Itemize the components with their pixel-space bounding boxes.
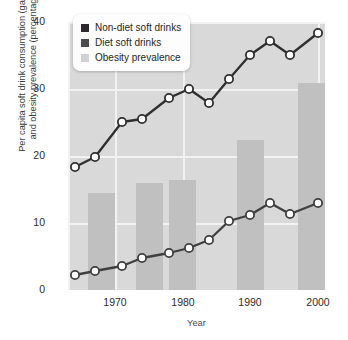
legend-item-diet-soft-drinks[interactable]: Diet soft drinks	[81, 35, 181, 50]
y-tick-label: 40	[21, 15, 45, 27]
x-tick-1980: 1980	[171, 296, 194, 308]
y-tick-label: 0	[21, 283, 45, 295]
line-diet-soft-drinks	[75, 203, 318, 275]
chart-legend: Non-diet soft drinks Diet soft drinks Ob…	[73, 14, 190, 71]
y-axis-title: Per capita soft drink consumption (gallo…	[13, 0, 43, 193]
legend-label: Obesity prevalence	[95, 52, 181, 63]
legend-swatch-icon	[81, 24, 89, 32]
y-tick-label: 10	[21, 216, 45, 228]
x-axis-title: Year	[68, 318, 325, 328]
legend-swatch-icon	[81, 54, 89, 62]
y-tick-label: 20	[21, 149, 45, 161]
x-tick-2000: 2000	[306, 296, 329, 308]
legend-item-obesity-prevalence[interactable]: Obesity prevalence	[81, 50, 181, 65]
legend-label: Diet soft drinks	[95, 37, 161, 48]
legend-label: Non-diet soft drinks	[95, 22, 181, 33]
legend-swatch-icon	[81, 39, 89, 47]
y-tick-label: 30	[21, 82, 45, 94]
x-tick-1970: 1970	[103, 296, 126, 308]
legend-item-non-diet-soft-drinks[interactable]: Non-diet soft drinks	[81, 20, 181, 35]
x-tick-1990: 1990	[238, 296, 261, 308]
chart-figure: Per capita soft drink consumption (gallo…	[0, 0, 348, 340]
